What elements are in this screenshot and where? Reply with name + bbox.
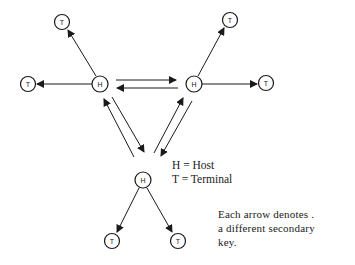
node-label: T: [228, 17, 233, 24]
node-label: T: [176, 238, 181, 245]
node-label: H: [97, 81, 102, 88]
legend: H = Host T = Terminal: [172, 158, 232, 186]
note-line: a different secondary: [218, 221, 315, 235]
node-label: T: [26, 81, 31, 88]
note-line: Each arrow denotes .: [218, 207, 315, 221]
edge-h2-t3: [198, 28, 224, 76]
edge-h3-t6: [147, 188, 172, 232]
edge-h2-h3: [161, 101, 192, 156]
node-label: T: [264, 80, 269, 87]
edge-h1-t1: [68, 30, 96, 76]
edge-h3-t5: [117, 188, 139, 232]
node-label: T: [60, 19, 65, 26]
node-label: H: [191, 81, 196, 88]
node-label: H: [140, 177, 145, 184]
legend-host: H = Host: [172, 158, 232, 172]
caption-note: Each arrow denotes . a different seconda…: [218, 207, 315, 249]
node-label: T: [110, 238, 115, 245]
note-line: key.: [218, 235, 315, 249]
legend-terminal: T = Terminal: [172, 172, 232, 186]
